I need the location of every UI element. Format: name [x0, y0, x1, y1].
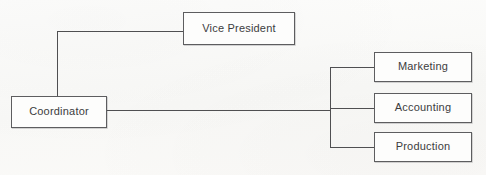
- node-label-marketing: Marketing: [398, 61, 448, 73]
- connector-coordinator-to-vicepresident-vertical: [57, 31, 58, 97]
- connector-bracket-to-accounting: [330, 108, 375, 109]
- node-label-coordinator: Coordinator: [29, 106, 89, 118]
- node-accounting[interactable]: Accounting: [374, 93, 472, 123]
- node-production[interactable]: Production: [374, 132, 472, 162]
- node-label-accounting: Accounting: [395, 102, 451, 114]
- node-label-production: Production: [396, 141, 451, 153]
- connector-coordinator-to-vicepresident-horizontal: [57, 31, 184, 32]
- connector-bracket-to-production: [330, 147, 375, 148]
- node-marketing[interactable]: Marketing: [374, 52, 472, 82]
- node-coordinator[interactable]: Coordinator: [11, 96, 107, 128]
- connector-coordinator-trunk: [107, 110, 331, 111]
- node-vice-president[interactable]: Vice President: [183, 12, 295, 45]
- connector-bracket-to-marketing: [330, 67, 375, 68]
- org-chart-diagram: Vice President Coordinator Marketing Acc…: [0, 0, 486, 175]
- node-label-vice-president: Vice President: [202, 23, 276, 35]
